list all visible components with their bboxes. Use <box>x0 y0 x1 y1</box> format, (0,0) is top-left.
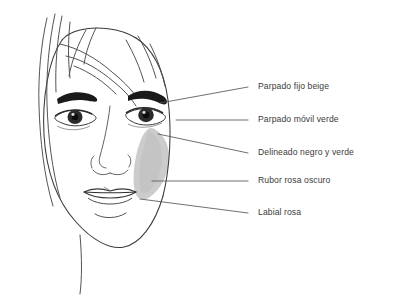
annotation-label-rubor-rosa-oscuro: Rubor rosa oscuro <box>258 176 330 185</box>
lips <box>84 187 136 204</box>
annotation-label-parpado-fijo-beige: Parpado fijo beige <box>258 82 329 91</box>
leader-line-parpado-fijo-beige <box>160 87 248 103</box>
left-eyebrow <box>57 92 97 104</box>
left-eye <box>55 110 96 130</box>
nose <box>91 106 131 175</box>
right-eye <box>126 108 166 128</box>
annotation-label-labial-rosa: Labial rosa <box>258 208 301 217</box>
leader-line-delineado-negro-y-verde <box>158 134 248 153</box>
annotation-label-parpado-movil-verde: Parpado móvil verde <box>258 115 339 124</box>
blush-shading <box>134 128 170 200</box>
annotation-label-delineado-negro-y-verde: Delineado negro y verde <box>258 148 354 157</box>
chin-and-neck <box>80 213 126 294</box>
makeup-annotation-diagram: Parpado fijo beigeParpado móvil verdeDel… <box>0 0 395 301</box>
leader-line-labial-rosa <box>140 199 248 213</box>
